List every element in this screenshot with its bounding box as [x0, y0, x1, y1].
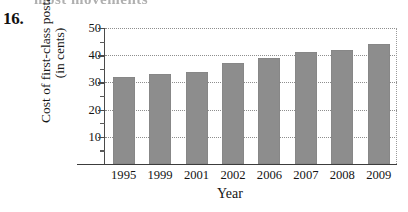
- y-tick-minor: [100, 96, 105, 97]
- y-axis-title-line2: (in cents): [53, 28, 67, 79]
- y-axis-title: Cost of first-class postage (in cents): [35, 0, 71, 131]
- x-tick-label: 2007: [293, 168, 318, 183]
- x-tick-label: 2001: [184, 168, 209, 183]
- bar: [149, 74, 171, 164]
- bar-series: [105, 28, 397, 164]
- x-axis-title: Year: [0, 186, 408, 202]
- x-tick-label: 2002: [220, 168, 245, 183]
- x-tick-label: 1995: [111, 168, 136, 183]
- y-tick-major: [98, 28, 105, 29]
- y-tick-major: [98, 55, 105, 56]
- y-tick-minor: [100, 42, 105, 43]
- x-tick-label: 2008: [330, 168, 355, 183]
- bar: [186, 72, 208, 164]
- y-axis-tick-labels: 1020304050: [77, 28, 101, 164]
- x-axis-line: [77, 164, 397, 166]
- plot-area: [105, 28, 397, 164]
- y-tick-major: [98, 82, 105, 83]
- y-axis-title-line1: Cost of first-class postage: [38, 0, 52, 123]
- y-tick-minor: [100, 123, 105, 124]
- bar-chart-figure: Cost of first-class postage (in cents) 1…: [0, 0, 408, 212]
- y-tick-minor: [100, 69, 105, 70]
- x-tick-label: 2006: [257, 168, 282, 183]
- y-tick-minor: [100, 150, 105, 151]
- bar: [222, 63, 244, 164]
- bar: [113, 77, 135, 164]
- x-axis-title-label: Year: [217, 186, 243, 202]
- x-tick-label: 2009: [366, 168, 391, 183]
- y-tick-major: [98, 137, 105, 138]
- bar: [295, 52, 317, 164]
- x-tick-label: 1999: [147, 168, 172, 183]
- y-tick-major: [98, 110, 105, 111]
- bar: [331, 50, 353, 164]
- bar: [258, 58, 280, 164]
- x-axis-tick-labels: 19951999200120022006200720082009: [0, 168, 408, 186]
- plot-wrap: 1020304050: [77, 28, 397, 164]
- bar: [368, 44, 390, 164]
